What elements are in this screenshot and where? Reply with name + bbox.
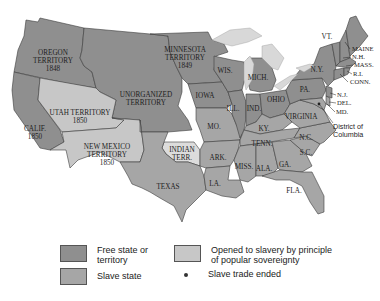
label-ny: N.Y. <box>310 66 323 74</box>
region-new-jersey <box>326 86 332 98</box>
legend-item-slave-trade-ended: Slave trade ended <box>174 269 348 279</box>
label-iowa: IOWA <box>196 92 216 100</box>
label-oregon-3: 1848 <box>46 65 61 73</box>
label-tenn: TENN. <box>252 140 273 148</box>
label-indian-terr-2: TERR. <box>172 154 192 162</box>
label-sc: S.C. <box>300 149 313 157</box>
label-new-mexico-2: TERRITORY <box>87 151 128 159</box>
label-ala: ALA. <box>256 165 273 173</box>
label-ky: KY. <box>258 125 269 133</box>
label-utah-1: UTAH TERRITORY <box>50 109 112 117</box>
legend-popsov-line1: Opened to slavery by principle <box>211 245 371 255</box>
label-unorganized-2: TERRITORY <box>126 99 167 107</box>
region-connecticut <box>334 68 344 80</box>
label-minnesota-3: 1849 <box>178 62 193 70</box>
legend-swatch-popular-sovereignty <box>174 245 201 262</box>
label-utah-2: 1850 <box>73 117 88 125</box>
label-minnesota-2: TERRITORY <box>165 54 206 62</box>
legend-label-slave-trade-ended: Slave trade ended <box>208 269 348 279</box>
label-texas: TEXAS <box>156 183 179 191</box>
label-nc: N.C. <box>299 134 313 142</box>
label-ri: R.I. <box>353 70 363 77</box>
label-miss: MISS. <box>235 163 254 171</box>
label-wis: WIS. <box>218 67 233 75</box>
label-new-mexico-1: NEW MEXICO <box>84 143 130 151</box>
label-ga: GA. <box>279 161 291 169</box>
label-california-2: 1850 <box>28 133 43 141</box>
label-unorganized-1: UNORGANIZED <box>120 91 172 99</box>
label-del: DEL. <box>337 99 352 106</box>
label-nh: N.H. <box>352 53 365 60</box>
figure-caption-fragment <box>8 293 78 301</box>
label-mass: MASS. <box>354 61 374 68</box>
legend-label-popular-sovereignty: Opened to slavery by principle of popula… <box>211 245 371 265</box>
label-ind: IND. <box>247 105 262 113</box>
label-mich: MICH. <box>248 74 269 82</box>
legend-swatch-free <box>60 245 87 262</box>
label-pa: PA. <box>300 86 311 94</box>
label-oregon-1: OREGON <box>38 49 69 57</box>
label-la: LA. <box>209 180 221 188</box>
legend-swatch-slave <box>60 268 87 285</box>
label-ohio: OHIO <box>267 96 285 104</box>
label-ill: ILL. <box>227 105 240 113</box>
label-vt: VT. <box>322 33 333 41</box>
map-legend: Free state or territory Slave state Open… <box>60 245 360 290</box>
label-conn: CONN. <box>350 78 371 85</box>
label-dc-2: Columbia <box>333 130 363 139</box>
slave-trade-dot-icon <box>184 273 188 277</box>
legend-popsov-line2: of popular sovereignty <box>211 255 371 265</box>
label-mo: MO. <box>207 123 221 131</box>
dc-slave-trade-dot <box>318 103 321 106</box>
label-minnesota-1: MINNESOTA <box>164 46 207 54</box>
label-virginia: VIRGINIA <box>285 113 319 121</box>
label-fla: FLA. <box>286 187 302 195</box>
label-maine: MAINE <box>352 45 374 52</box>
label-nj: N.J. <box>337 91 348 98</box>
label-new-mexico-3: 1850 <box>100 159 115 167</box>
label-ark: ARK. <box>210 154 227 162</box>
label-md: MD. <box>336 108 349 115</box>
region-delaware <box>326 96 330 106</box>
label-oregon-2: TERRITORY <box>33 57 74 65</box>
legend-item-popular-sovereignty: Opened to slavery by principle of popula… <box>174 245 371 265</box>
label-indian-terr-1: INDIAN <box>169 146 195 154</box>
label-california-1: CALIF. <box>24 125 46 133</box>
